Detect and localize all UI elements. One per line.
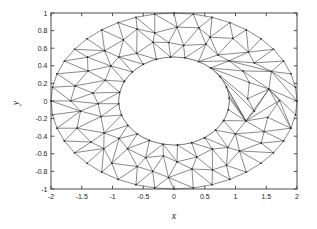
y-tick-label: -0.6 — [35, 150, 47, 157]
x-tick-label: 2 — [295, 193, 299, 200]
x-tick-label: 0 — [172, 193, 176, 200]
matlab-figure: -2-1.5-1-0.500.511.5210.80.60.40.20-0.2-… — [0, 0, 317, 229]
x-tick-label: -1.5 — [76, 193, 88, 200]
x-axis-label: x — [171, 210, 177, 221]
y-tick-label: 0.6 — [38, 45, 48, 52]
y-tick-label: 0 — [44, 98, 48, 105]
x-tick-label: -2 — [48, 193, 54, 200]
y-tick-label: -0.8 — [35, 168, 47, 175]
y-tick-label: -0.2 — [35, 115, 47, 122]
x-tick-label: 1.5 — [261, 193, 271, 200]
x-tick-label: 0.5 — [200, 193, 210, 200]
x-tick-label: -0.5 — [137, 193, 149, 200]
y-tick-label: -1 — [41, 186, 47, 193]
x-tick-label: 1 — [234, 193, 238, 200]
y-tick-label: 0.2 — [38, 80, 48, 87]
mesh-plot: -2-1.5-1-0.500.511.5210.80.60.40.20-0.2-… — [0, 0, 317, 229]
y-tick-label: 0.8 — [38, 27, 48, 34]
y-tick-label: 1 — [44, 10, 48, 17]
y-tick-label: -0.4 — [35, 133, 47, 140]
triangular-mesh — [50, 12, 298, 190]
y-tick-label: 0.4 — [38, 62, 48, 69]
y-axis-label: y — [10, 100, 21, 106]
x-tick-label: -1 — [109, 193, 115, 200]
